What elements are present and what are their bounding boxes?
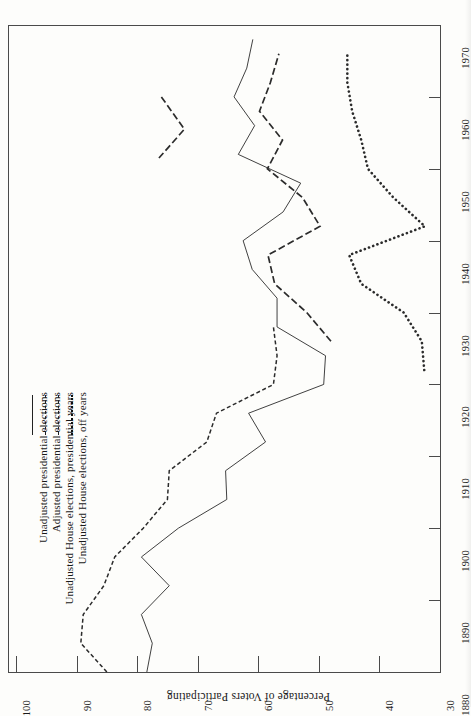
legend-label-2: Unadjusted House elections, presidential… [63,392,75,604]
legend-sample-dashed-long [58,395,59,435]
series-line-house-off-years [347,54,425,370]
percentage-tick-label-90: 90 [82,700,93,711]
legend-label-1: Adjusted presidential elections [50,392,62,532]
legend-label-3: Unadjusted House elections, off years [76,392,88,564]
scan-edge-shadow [465,0,471,707]
percentage-tick-label-80: 80 [142,700,153,711]
percentage-tick-label-100: 100 [21,700,32,716]
legend-label-0: Unadjusted presidential elections [37,392,49,543]
series-line-fragment [159,97,184,158]
legend-sample-solid [32,395,33,435]
series-line-unadjusted-presidential [141,39,325,672]
legend-sample-dotted [71,395,73,435]
y-axis-title: Percentage of Voters Participating [167,691,330,703]
percentage-tick-label-40: 40 [384,700,395,711]
series-line-adjusted-presidential [81,327,277,672]
legend: Unadjusted presidential electionsAdjuste… [26,92,88,392]
series-line-house-presidential-years [260,54,331,342]
legend-sample-dashed-small [45,395,46,435]
percentage-tick-label-30: 30 [445,700,456,711]
